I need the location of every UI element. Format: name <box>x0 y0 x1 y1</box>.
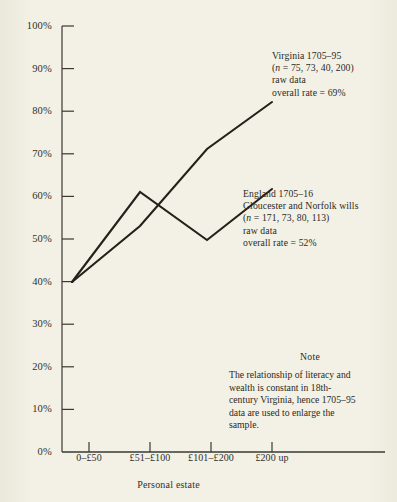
note-line1: The relationship of literacy and <box>229 369 391 381</box>
annotation-virginia: Virginia 1705–95 (n = 75, 73, 40, 200) r… <box>272 50 354 99</box>
annotation-virginia-line2: (n = 75, 73, 40, 200) <box>272 62 354 74</box>
series-line-england <box>72 189 272 282</box>
note-line3: century Virginia, hence 1705–95 <box>229 394 391 406</box>
note-line2: wealth is constant in 18th- <box>229 382 391 394</box>
y-tick-label-50: 50% <box>6 233 52 244</box>
y-tick-label-10: 10% <box>6 403 52 414</box>
y-tick-label-20: 20% <box>6 361 52 372</box>
annotation-england-line4: raw data <box>243 225 359 237</box>
annotation-england-line2: Gloucester and Norfolk wills <box>243 200 359 212</box>
chart-figure: 100% 90% 80% 70% 60% 50% 40% 30% 20% 10%… <box>0 0 397 502</box>
x-tick-marks <box>89 442 272 452</box>
annotation-england-line3-post: = 171, 73, 80, 113) <box>251 212 329 223</box>
y-tick-marks <box>62 26 74 409</box>
y-tick-label-80: 80% <box>6 105 52 116</box>
annotation-england-line5: overall rate = 52% <box>243 237 359 249</box>
y-tick-label-70: 70% <box>6 148 52 159</box>
y-tick-label-90: 90% <box>6 63 52 74</box>
y-tick-label-100: 100% <box>6 20 52 31</box>
y-tick-label-30: 30% <box>6 318 52 329</box>
annotation-virginia-line2-post: = 75, 73, 40, 200) <box>280 62 354 73</box>
note-title: Note <box>229 351 391 363</box>
annotation-england-line3: (n = 171, 73, 80, 113) <box>243 212 359 224</box>
annotation-virginia-line3: raw data <box>272 74 354 86</box>
y-tick-label-40: 40% <box>6 276 52 287</box>
annotation-virginia-line1: Virginia 1705–95 <box>272 50 354 62</box>
y-tick-label-60: 60% <box>6 190 52 201</box>
x-axis-title: Personal estate <box>0 479 367 490</box>
y-tick-label-0: 0% <box>6 446 52 457</box>
note-body: The relationship of literacy and wealth … <box>229 369 391 431</box>
annotation-england: England 1705–16 Gloucester and Norfolk w… <box>243 188 359 249</box>
note-line4: data are used to enlarge the <box>229 407 391 419</box>
x-tick-label-200-up: £200 up <box>230 452 314 463</box>
annotation-virginia-line4: overall rate = 69% <box>272 87 354 99</box>
note-block: Note The relationship of literacy and we… <box>229 351 391 431</box>
chart-page: 100% 90% 80% 70% 60% 50% 40% 30% 20% 10%… <box>0 0 397 502</box>
series-line-virginia <box>72 102 272 282</box>
annotation-england-line1: England 1705–16 <box>243 188 359 200</box>
note-line5: sample. <box>229 419 391 431</box>
